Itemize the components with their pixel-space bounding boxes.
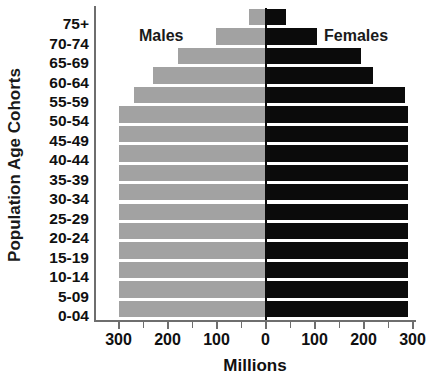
bar-male-20-24: [119, 223, 265, 239]
x-axis-major-tick: [216, 321, 218, 329]
series-label-females: Females: [324, 27, 388, 45]
bar-male-40-44: [119, 145, 265, 161]
y-axis-tick-label: 45-49: [49, 133, 89, 149]
population-pyramid-chart: Population Age Cohorts 75+70-7465-6960-6…: [0, 0, 442, 385]
bar-female-0-04: [266, 301, 408, 317]
y-axis-tick-label: 25-29: [49, 211, 89, 227]
bar-male-25-29: [119, 204, 265, 220]
bar-male-10-14: [119, 262, 265, 278]
x-axis-tick-label: 300: [399, 331, 426, 349]
x-axis-major-tick: [363, 321, 365, 329]
x-axis-major-tick: [412, 321, 414, 329]
y-axis-title-text: Population Age Cohorts: [5, 68, 25, 262]
x-axis-major-tick: [167, 321, 169, 329]
x-axis-title: Millions: [94, 356, 416, 376]
bar-male-15-19: [119, 242, 265, 258]
y-axis-tick-label: 5-09: [58, 289, 89, 305]
series-label-males: Males: [139, 27, 183, 45]
x-axis-minor-tick: [192, 321, 193, 328]
bar-male-5-09: [119, 281, 265, 297]
y-axis-tick-label: 35-39: [49, 172, 89, 188]
plot-area: [94, 8, 414, 320]
bar-male-75+: [249, 9, 265, 25]
bar-female-10-14: [266, 262, 408, 278]
bar-female-35-39: [266, 165, 408, 181]
x-axis-tick-label: 100: [301, 331, 328, 349]
y-axis-tick-label: 0-04: [58, 308, 89, 324]
x-axis-tick-label: 100: [203, 331, 230, 349]
x-axis-minor-tick: [388, 321, 389, 328]
x-axis-minor-tick: [241, 321, 242, 328]
x-axis-tick-label: 200: [154, 331, 181, 349]
bar-female-50-54: [266, 106, 408, 122]
y-axis-tick-label: 55-59: [49, 94, 89, 110]
bar-male-0-04: [119, 301, 265, 317]
y-axis-tick-label: 65-69: [49, 55, 89, 71]
y-axis-tick-label: 50-54: [49, 113, 89, 129]
bar-female-70-74: [266, 28, 318, 44]
bar-female-20-24: [266, 223, 408, 239]
y-axis-tick-label: 70-74: [49, 36, 89, 52]
x-axis-tick-label: 0: [261, 331, 270, 349]
x-axis-minor-tick: [143, 321, 144, 328]
bar-male-65-69: [178, 48, 265, 64]
x-axis-minor-tick: [339, 321, 340, 328]
bar-female-60-64: [266, 67, 374, 83]
bar-female-15-19: [266, 242, 408, 258]
y-axis-tick-labels: 75+70-7465-6960-6455-5950-5445-4940-4435…: [26, 8, 92, 320]
y-axis-tick-label: 40-44: [49, 152, 89, 168]
x-axis-minor-tick: [290, 321, 291, 328]
bar-female-5-09: [266, 281, 408, 297]
bar-female-45-49: [266, 126, 408, 142]
x-axis-major-tick: [265, 321, 267, 329]
bar-male-30-34: [119, 184, 265, 200]
y-axis-tick-label: 20-24: [49, 230, 89, 246]
center-axis-line: [265, 8, 267, 321]
bar-female-40-44: [266, 145, 408, 161]
y-axis-tick-label: 15-19: [49, 250, 89, 266]
bar-female-75+: [266, 9, 286, 25]
bar-female-25-29: [266, 204, 408, 220]
bar-female-55-59: [266, 87, 405, 103]
bar-male-60-64: [153, 67, 265, 83]
y-axis-tick-label: 30-34: [49, 191, 89, 207]
bar-male-45-49: [119, 126, 265, 142]
bar-female-65-69: [266, 48, 361, 64]
y-axis-tick-label: 10-14: [49, 269, 89, 285]
x-axis-tick-label: 300: [105, 331, 132, 349]
bar-male-50-54: [119, 106, 265, 122]
bar-male-55-59: [134, 87, 266, 103]
bar-female-30-34: [266, 184, 408, 200]
y-axis-tick-label: 60-64: [49, 75, 89, 91]
bar-male-70-74: [216, 28, 266, 44]
x-axis-tick-label: 200: [350, 331, 377, 349]
bar-male-35-39: [119, 165, 265, 181]
x-axis-major-tick: [314, 321, 316, 329]
x-axis-major-tick: [118, 321, 120, 329]
y-axis-tick-label: 75+: [63, 16, 89, 32]
